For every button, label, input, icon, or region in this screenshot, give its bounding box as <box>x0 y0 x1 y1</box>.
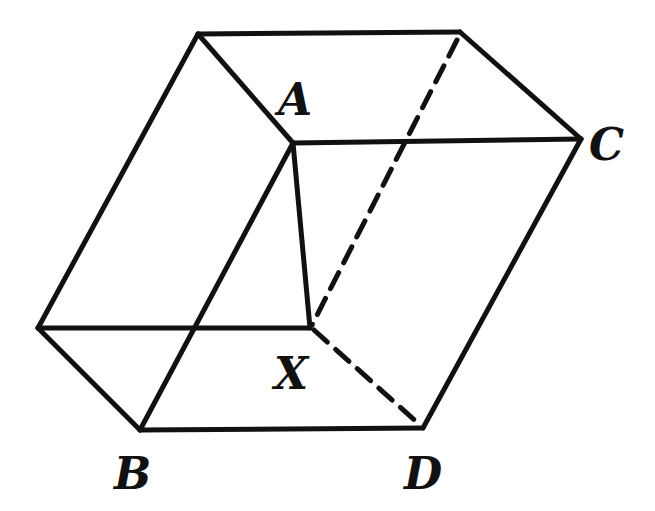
label-a: A <box>274 74 312 125</box>
hidden-edge-top-right-to-x <box>312 40 457 325</box>
edge-top-right-to-c <box>460 32 581 139</box>
edge-b-to-d <box>140 428 423 430</box>
label-d: D <box>402 448 442 499</box>
edge-top-back <box>198 32 460 34</box>
edge-a-to-b <box>140 143 293 430</box>
edge-left-to-b <box>38 328 140 430</box>
label-b: B <box>112 448 151 499</box>
label-c: C <box>589 119 624 170</box>
edge-c-to-d <box>423 139 581 428</box>
edge-a-to-x <box>293 143 310 328</box>
label-x: X <box>271 348 310 399</box>
edge-a-to-c <box>293 139 581 143</box>
rhombohedron-diagram: A C X B D <box>0 0 655 511</box>
hidden-edge-x-to-d <box>314 330 420 425</box>
edge-top-left-to-left <box>38 34 198 328</box>
